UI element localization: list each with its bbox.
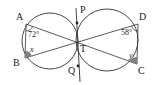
point-p [76, 22, 79, 25]
angle-label-d: 58° [121, 28, 132, 37]
point-q [77, 65, 80, 68]
angle-label-y: y [128, 51, 133, 60]
chord-dc [137, 24, 138, 64]
left-circle [22, 13, 78, 69]
label-b: B [13, 57, 20, 68]
label-c: C [138, 65, 145, 76]
angle-label-x: x [29, 45, 34, 54]
label-d: D [139, 11, 146, 22]
label-p: P [80, 4, 86, 15]
label-a: A [16, 11, 24, 22]
geometry-diagram: A B C D P Q T 72° 58° x y [0, 0, 157, 85]
label-t: T [80, 43, 86, 54]
label-q: Q [68, 65, 76, 76]
angle-label-a: 72° [28, 30, 39, 39]
